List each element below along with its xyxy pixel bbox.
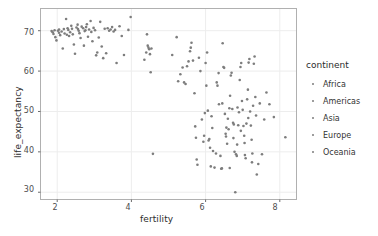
legend-key-dot-icon [306,134,320,137]
panel-border [41,9,297,200]
legend-item-oceania[interactable]: Oceania [306,145,376,159]
legend-item-label: Asia [323,114,340,123]
legend-item-label: Americas [323,97,360,106]
legend-item-africa[interactable]: Africa [306,77,376,91]
legend: continent AfricaAmericasAsiaEuropeOceani… [306,60,376,162]
legend-item-europe[interactable]: Europe [306,128,376,142]
axis-ticks [38,31,280,202]
legend-item-americas[interactable]: Americas [306,94,376,108]
legend-key-dot-icon [306,83,320,86]
legend-title: continent [306,60,376,70]
legend-item-label: Europe [323,131,351,140]
scatter-plot-figure: life_expectancy fertility 70 60 50 40 30… [0,0,378,236]
legend-item-label: Oceania [323,148,356,157]
legend-item-label: Africa [323,80,346,89]
grid-lines [41,9,297,200]
data-points [50,16,286,194]
legend-key-dot-icon [306,117,320,120]
legend-key-dot-icon [306,100,320,103]
legend-key-dot-icon [306,151,320,154]
legend-items: AfricaAmericasAsiaEuropeOceania [306,77,376,159]
legend-item-asia[interactable]: Asia [306,111,376,125]
